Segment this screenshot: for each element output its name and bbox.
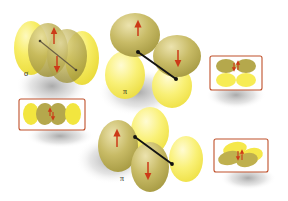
inset-pi-bottom-panel bbox=[214, 139, 268, 172]
pi-top-label: π bbox=[123, 88, 127, 96]
diagram-canvas: σ π π bbox=[0, 0, 288, 201]
inset-sigma-panel bbox=[19, 99, 85, 130]
sigma-lobe-inner-right bbox=[47, 29, 87, 83]
pi-top-lobe-upper-left bbox=[110, 13, 160, 57]
sigma-label: σ bbox=[24, 70, 28, 78]
inset-pi-top-ellipse-olive-left bbox=[216, 59, 236, 73]
inset-pi-top-ellipse-pale-right bbox=[236, 73, 256, 87]
inset-pi-top-border bbox=[210, 56, 262, 90]
pi-bottom-lobe-pale-right bbox=[169, 136, 203, 182]
inset-sigma-ellipse-4 bbox=[65, 103, 81, 125]
inset-pi-top-ellipse-olive-right bbox=[236, 59, 256, 73]
pi-bottom-lobe-olive-right bbox=[131, 142, 169, 192]
pi-top-lobe-upper-right bbox=[153, 35, 201, 77]
inset-pi-top-ellipse-pale-left bbox=[216, 73, 236, 87]
inset-sigma-ellipse-3 bbox=[49, 103, 67, 125]
pi-bottom-label: π bbox=[120, 175, 124, 183]
orbital-diagram-svg bbox=[0, 0, 288, 201]
inset-pi-top-panel bbox=[210, 56, 262, 90]
